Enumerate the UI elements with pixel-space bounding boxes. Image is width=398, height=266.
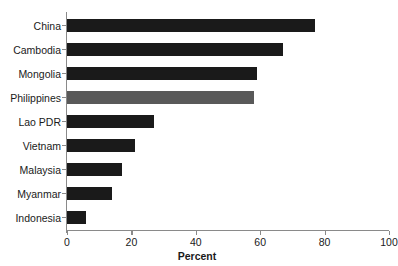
y-tick-8 bbox=[62, 217, 66, 218]
bar-row-lao-pdr bbox=[67, 110, 389, 134]
bar-vietnam bbox=[67, 139, 135, 152]
y-tick-7 bbox=[62, 193, 66, 194]
bar-mongolia bbox=[67, 67, 257, 80]
bar-row-mongolia bbox=[67, 62, 389, 86]
x-tick-label-60: 60 bbox=[254, 236, 266, 248]
category-label-cambodia: Cambodia bbox=[13, 38, 66, 62]
bar-myanmar bbox=[67, 187, 112, 200]
bar-lao-pdr bbox=[67, 115, 154, 128]
x-tick-label-100: 100 bbox=[380, 236, 398, 248]
category-label-philippines: Philippines bbox=[10, 86, 66, 110]
y-tick-1 bbox=[62, 49, 66, 50]
x-tick-60 bbox=[260, 231, 261, 235]
y-tick-4 bbox=[62, 121, 66, 122]
y-tick-5 bbox=[62, 145, 66, 146]
category-label-column: China Cambodia Mongolia Philippines Lao … bbox=[0, 14, 66, 230]
x-tick-label-0: 0 bbox=[64, 236, 70, 248]
bar-malaysia bbox=[67, 163, 122, 176]
bar-philippines bbox=[67, 91, 254, 104]
x-axis-line bbox=[66, 230, 389, 231]
x-tick-label-40: 40 bbox=[190, 236, 202, 248]
y-tick-2 bbox=[62, 73, 66, 74]
bar-cambodia bbox=[67, 43, 283, 56]
bar-row-myanmar bbox=[67, 182, 389, 206]
x-tick-100 bbox=[389, 231, 390, 235]
y-tick-6 bbox=[62, 169, 66, 170]
x-tick-0 bbox=[67, 231, 68, 235]
bar-row-china bbox=[67, 14, 389, 38]
category-label-myanmar: Myanmar bbox=[17, 182, 66, 206]
bar-row-philippines bbox=[67, 86, 389, 110]
bar-row-cambodia bbox=[67, 38, 389, 62]
x-tick-label-20: 20 bbox=[126, 236, 138, 248]
x-tick-20 bbox=[131, 231, 132, 235]
bar-china bbox=[67, 19, 315, 32]
category-label-indonesia: Indonesia bbox=[15, 206, 66, 230]
category-label-mongolia: Mongolia bbox=[18, 62, 66, 86]
bar-row-malaysia bbox=[67, 158, 389, 182]
category-label-vietnam: Vietnam bbox=[23, 134, 66, 158]
x-tick-label-80: 80 bbox=[319, 236, 331, 248]
category-label-lao-pdr: Lao PDR bbox=[18, 110, 66, 134]
plot-area bbox=[67, 14, 389, 230]
x-axis-title: Percent bbox=[0, 250, 394, 262]
y-tick-3 bbox=[62, 97, 66, 98]
x-tick-40 bbox=[196, 231, 197, 235]
y-tick-0 bbox=[62, 25, 66, 26]
bar-indonesia bbox=[67, 211, 86, 224]
x-tick-80 bbox=[325, 231, 326, 235]
bar-row-vietnam bbox=[67, 134, 389, 158]
bar-row-indonesia bbox=[67, 206, 389, 230]
category-label-malaysia: Malaysia bbox=[20, 158, 66, 182]
